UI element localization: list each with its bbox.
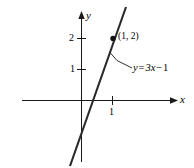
equation-leader-line (110, 52, 133, 68)
equation-minus: − (156, 62, 162, 73)
equation-equals: = (139, 62, 145, 73)
data-point-marker (110, 36, 115, 41)
equation-label: y = 3x − 1 (133, 63, 168, 74)
y-axis-arrowhead (78, 11, 84, 19)
x-tick-label-1: 1 (109, 107, 114, 117)
y-tick-label-1: 1 (70, 64, 75, 74)
x-axis-label: x (180, 94, 185, 105)
equation-constant: 1 (163, 62, 168, 73)
equation-term: 3x (145, 62, 155, 73)
data-point-label: (1, 2) (118, 32, 139, 42)
y-axis-label: y (86, 10, 91, 21)
equation-lhs: y (133, 62, 138, 73)
coordinate-plane-svg (0, 0, 194, 168)
x-axis-arrowhead (170, 97, 178, 103)
y-tick-label-2: 2 (69, 33, 74, 43)
graph-figure: y x 2 1 1 (1, 2) y = 3x − 1 (0, 0, 194, 168)
